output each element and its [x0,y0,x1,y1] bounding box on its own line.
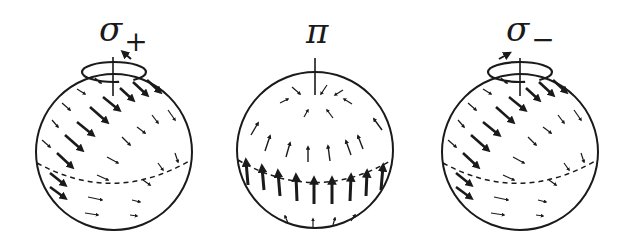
field-arrow [152,115,158,123]
field-arrow [496,107,513,122]
field-arrow [483,122,499,135]
field-arrow [553,80,566,92]
field-arrow [513,157,524,163]
field-arrow [526,88,539,100]
sphere-outline [237,72,393,228]
field-arrow [52,120,58,127]
field-arrow [143,180,150,185]
field-arrow [62,103,70,110]
field-arrow [321,85,327,94]
field-arrow [328,146,330,161]
field-arrow [65,135,82,150]
field-arrow [246,161,248,185]
field-arrow [88,197,102,200]
field-arrow [107,157,118,163]
field-arrow [97,175,108,180]
field-arrow [346,141,351,155]
label-sigma-plus: σ+ [99,12,148,46]
field-arrow [539,82,553,95]
field-arrow [581,153,584,162]
field-arrow [50,187,65,198]
field-arrow [491,213,504,215]
field-arrow [278,172,280,196]
field-arrow [528,137,536,145]
field-arrow [133,82,147,95]
sphere-outline [442,74,598,230]
field-arrow [168,110,175,120]
field-arrow [456,187,471,198]
field-arrow [42,140,50,147]
field-arrow [543,127,551,133]
label-pi: π [306,14,328,48]
field-arrow [536,215,543,216]
field-arrow [296,176,297,201]
field-arrow [292,87,300,94]
label-symbol: σ [506,9,529,49]
field-arrow [358,136,363,149]
panel-pi [237,58,393,228]
field-arrow [344,99,352,104]
field-arrow [574,110,581,120]
field-arrow [509,97,525,110]
field-arrow [564,163,569,170]
field-arrow [463,153,478,167]
field-arrow [130,215,137,216]
field-arrows [448,78,584,216]
field-arrow [103,97,119,110]
field-arrow [374,119,382,130]
field-arrow [333,218,335,225]
field-arrow [503,175,514,180]
label-subscript: + [124,25,147,58]
field-arrows [42,78,178,216]
field-arrow [327,110,333,118]
field-arrow [335,90,343,95]
field-arrow [366,172,367,196]
field-arrow [77,122,93,135]
label-symbol: σ [99,9,122,49]
field-arrow [262,167,264,190]
field-arrow [90,107,107,122]
field-arrow [280,99,288,103]
field-arrow [471,135,488,150]
field-arrow [304,110,308,117]
field-arrow [265,136,270,151]
field-arrow [549,180,556,185]
field-arrow [483,89,491,94]
label-sigma-minus: σ− [506,12,555,46]
field-arrow [251,123,258,135]
field-arrow [494,197,508,200]
field-arrow [538,200,546,202]
field-arrow [286,143,290,157]
field-arrow [137,127,145,133]
field-arrow [175,153,178,162]
field-arrow [57,153,72,167]
field-arrow [350,176,351,201]
label-symbol: π [306,11,328,51]
field-arrow [448,140,456,147]
panel-sigma-plus [36,53,192,230]
field-arrow [381,166,383,190]
label-subscript: − [531,23,554,56]
field-arrow [147,80,160,92]
field-arrow [120,88,133,100]
field-arrow [468,103,476,110]
field-arrow [132,200,140,202]
field-arrow [458,120,464,127]
field-arrow [122,137,130,145]
sphere-outline [36,74,192,230]
field-arrow [158,163,163,170]
field-arrow [77,89,85,94]
field-arrow [558,115,564,123]
field-arrows [246,85,383,227]
panel-sigma-minus [442,54,598,230]
field-arrow [85,213,98,215]
